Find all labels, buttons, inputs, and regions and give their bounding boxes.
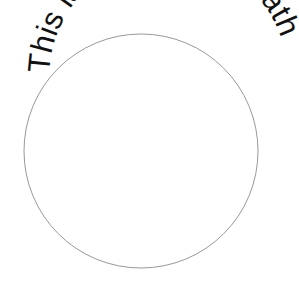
circle-path (24, 34, 258, 268)
curved-text: This is text along a path (21, 0, 299, 74)
text-on-path-figure: This is text along a path (0, 0, 299, 297)
curved-text-path: This is text along a path (21, 0, 299, 74)
